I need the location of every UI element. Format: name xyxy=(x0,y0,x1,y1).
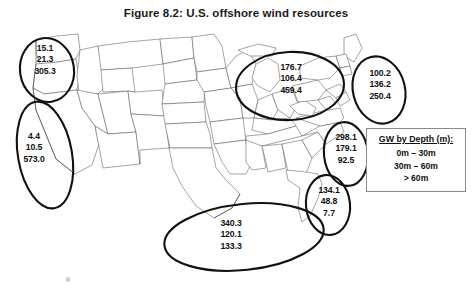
region-label-mid-atlantic: 298.1 179.1 92.5 xyxy=(322,132,370,166)
legend-title: GW by Depth (m): xyxy=(369,134,463,144)
region-label-gulf-of-mexico: 340.3 120.1 133.3 xyxy=(205,218,257,252)
region-label-southeast: 134.1 48.8 7.7 xyxy=(306,185,352,219)
region-value-se-2: 7.7 xyxy=(306,208,352,219)
region-value-gulf-0: 340.3 xyxy=(205,218,257,229)
region-value-ma-2: 92.5 xyxy=(322,155,370,166)
region-value-ma-0: 298.1 xyxy=(322,132,370,143)
region-label-california: 4.4 10.5 573.0 xyxy=(8,131,60,165)
region-label-new-england: 100.2 136.2 250.4 xyxy=(354,68,406,102)
figure-title: Figure 8.2: U.S. offshore wind resources xyxy=(0,7,472,19)
region-value-ne-2: 250.4 xyxy=(354,91,406,102)
scan-artifact-speck xyxy=(66,277,70,282)
figure-offshore-wind-resources: Figure 8.2: U.S. offshore wind resources xyxy=(0,0,472,288)
region-value-ca-1: 10.5 xyxy=(8,142,60,153)
region-value-se-0: 134.1 xyxy=(306,185,352,196)
region-value-se-1: 48.8 xyxy=(306,196,352,207)
region-value-ne-0: 100.2 xyxy=(354,68,406,79)
region-value-pnw-2: 305.3 xyxy=(19,66,71,77)
region-value-ne-1: 136.2 xyxy=(354,79,406,90)
region-value-pnw-0: 15.1 xyxy=(19,43,71,54)
legend-row-30m-60m: 30m – 60m xyxy=(369,160,463,173)
legend-row-0m-30m: 0m – 30m xyxy=(369,147,463,160)
region-value-ma-1: 179.1 xyxy=(322,143,370,154)
region-value-ca-0: 4.4 xyxy=(8,131,60,142)
region-value-gulf-1: 120.1 xyxy=(205,229,257,240)
region-value-gl-0: 176.7 xyxy=(265,62,317,73)
region-value-gl-2: 459.4 xyxy=(265,85,317,96)
legend-box: GW by Depth (m): 0m – 30m 30m – 60m > 60… xyxy=(366,128,466,192)
region-value-pnw-1: 21.3 xyxy=(19,54,71,65)
legend-row-over-60m: > 60m xyxy=(369,172,463,185)
region-label-pacific-northwest: 15.1 21.3 305.3 xyxy=(19,43,71,77)
region-label-great-lakes: 176.7 106.4 459.4 xyxy=(265,62,317,96)
region-value-ca-2: 573.0 xyxy=(8,154,60,165)
region-value-gl-1: 106.4 xyxy=(265,73,317,84)
region-value-gulf-2: 133.3 xyxy=(205,241,257,252)
